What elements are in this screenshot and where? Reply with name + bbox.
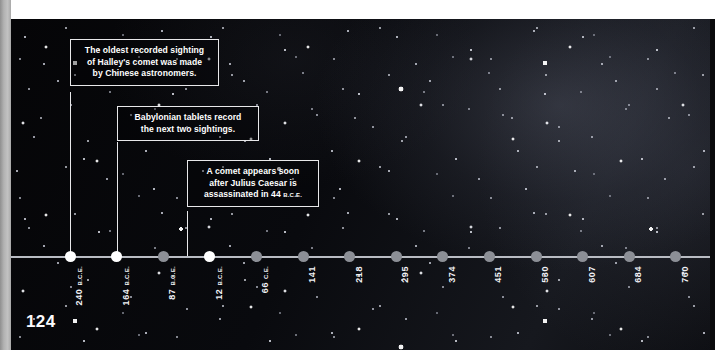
timeline-label-era: C.E. bbox=[263, 266, 269, 279]
timeline-label-66: 66 C.E. bbox=[260, 266, 270, 293]
page-right-edge bbox=[710, 19, 715, 350]
timeline-label-year: 760 bbox=[680, 266, 690, 283]
timeline-label-era: B.C.E. bbox=[216, 266, 222, 285]
timeline-label-year: 218 bbox=[354, 266, 364, 283]
leader-line-babylonian-tablets bbox=[117, 142, 118, 257]
callout-oldest-sighting: The oldest recorded sighting of Halley's… bbox=[70, 39, 219, 86]
timeline-label-684: 684 bbox=[633, 266, 643, 283]
callout-line-text: assassinated in 44 bbox=[204, 189, 281, 199]
callout-era-suffix: B.C.E. bbox=[283, 192, 302, 198]
timeline-label-164: 164 B.C.E. bbox=[121, 266, 131, 305]
timeline-label-218: 218 bbox=[354, 266, 364, 283]
timeline-label-era: B.C.E. bbox=[170, 266, 176, 285]
timeline-label-era: B.C.E. bbox=[123, 266, 129, 285]
timeline-label-year: 684 bbox=[633, 266, 643, 283]
timeline-label-374: 374 bbox=[447, 266, 457, 283]
timeline-label-year: 141 bbox=[307, 266, 317, 283]
timeline-label-year: 451 bbox=[493, 266, 503, 283]
timeline-label-12: 12 B.C.E. bbox=[214, 266, 224, 300]
callout-babylonian-tablets: Babylonian tablets record the next two s… bbox=[117, 106, 259, 141]
callout-line: The oldest recorded sighting bbox=[79, 45, 210, 57]
callout-line: after Julius Caesar is bbox=[196, 178, 310, 190]
callout-line: Babylonian tablets record bbox=[126, 112, 250, 124]
timeline-dot-684[interactable] bbox=[624, 251, 635, 262]
timeline-label-year: 164 bbox=[121, 289, 131, 306]
callout-line: assassinated in 44 B.C.E. bbox=[196, 189, 310, 201]
timeline-dot-141[interactable] bbox=[298, 251, 309, 262]
timeline-label-760: 760 bbox=[680, 266, 690, 283]
timeline-label-year: 374 bbox=[447, 266, 457, 283]
timeline-dot-87[interactable] bbox=[158, 251, 169, 262]
timeline-label-240: 240 B.C.E. bbox=[74, 266, 84, 305]
page-binding-strip bbox=[0, 0, 11, 350]
callout-line: of Halley's comet was made bbox=[79, 57, 210, 69]
timeline-label-87: 87 B.C.E. bbox=[167, 266, 177, 300]
timeline-label-year: 12 bbox=[214, 289, 224, 300]
timeline-label-year: 87 bbox=[167, 289, 177, 300]
timeline-page: The oldest recorded sighting of Halley's… bbox=[0, 0, 715, 350]
timeline-dot-66[interactable] bbox=[251, 251, 262, 262]
timeline-dot-240[interactable] bbox=[65, 251, 76, 262]
timeline-dot-530[interactable] bbox=[531, 251, 542, 262]
timeline-label-year: 295 bbox=[400, 266, 410, 283]
callout-julius-caesar: A comet appears soon after Julius Caesar… bbox=[187, 160, 319, 207]
page-number: 124 bbox=[26, 312, 56, 332]
timeline-label-era: B.C.E. bbox=[77, 266, 83, 285]
timeline-label-141: 141 bbox=[307, 266, 317, 283]
timeline-dot-451[interactable] bbox=[484, 251, 495, 262]
timeline-label-year: 240 bbox=[74, 289, 84, 306]
timeline-label-year: 66 bbox=[260, 282, 270, 293]
callout-line: A comet appears soon bbox=[196, 166, 310, 178]
timeline-dot-295[interactable] bbox=[391, 251, 402, 262]
leader-line-oldest-sighting bbox=[70, 92, 71, 257]
leader-line-julius-caesar bbox=[187, 211, 188, 257]
callout-line: the next two sightings. bbox=[126, 124, 250, 136]
page-top-margin bbox=[11, 0, 715, 19]
timeline-label-year: 607 bbox=[587, 266, 597, 283]
callout-line: by Chinese astronomers. bbox=[79, 68, 210, 80]
timeline-label-295: 295 bbox=[400, 266, 410, 283]
timeline-label-451: 451 bbox=[493, 266, 503, 283]
timeline-label-607: 607 bbox=[587, 266, 597, 283]
timeline-label-year: 530 bbox=[540, 266, 550, 283]
timeline-label-530: 530 bbox=[540, 266, 550, 283]
